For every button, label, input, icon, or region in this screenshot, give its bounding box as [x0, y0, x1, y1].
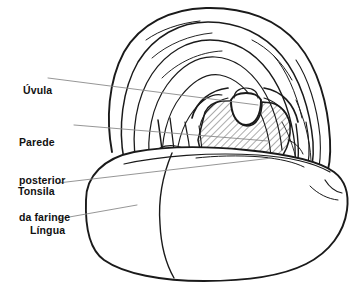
- label-tonsila: Tonsila: [6, 172, 55, 210]
- label-lingua: Língua: [18, 211, 65, 249]
- uvula-body: [231, 93, 261, 125]
- label-uvula: Úvula: [11, 71, 52, 109]
- label-parede-line1: Parede: [19, 136, 70, 149]
- label-uvula-text: Úvula: [23, 84, 52, 96]
- tongue-structure: [86, 147, 348, 281]
- tongue-fill: [86, 147, 348, 281]
- oral-cavity-anatomy-figure: Úvula Parede posterior da faringe Tonsil…: [0, 0, 354, 286]
- label-lingua-text: Língua: [30, 224, 65, 236]
- label-tonsila-text: Tonsila: [18, 185, 55, 197]
- uvula-structure: [231, 88, 261, 125]
